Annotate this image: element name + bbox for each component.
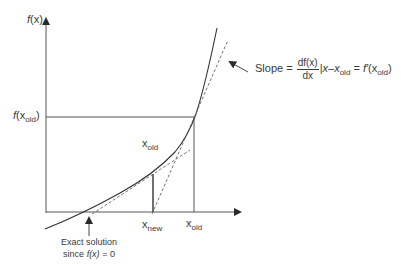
exact-solution-fn: f(x) bbox=[87, 249, 100, 259]
tangent-at-xnew bbox=[92, 150, 190, 214]
exact-solution-line1: Exact solution bbox=[58, 236, 120, 248]
xold-mid-base: x bbox=[142, 137, 148, 149]
exact-solution-caption: Exact solution since f(x) = 0 bbox=[58, 236, 120, 260]
eval-at: x–x bbox=[323, 62, 340, 74]
exact-solution-prefix: since bbox=[63, 249, 87, 259]
f-xold-sub: old bbox=[25, 115, 36, 124]
tangent-at-xold bbox=[152, 40, 228, 214]
y-axis-label: f(x) bbox=[27, 14, 43, 25]
y-axis-label-arg: (x) bbox=[30, 13, 43, 25]
derivative-denominator: dx bbox=[297, 70, 319, 81]
eval-sub: old bbox=[340, 68, 351, 77]
xold-axis-sub: old bbox=[192, 223, 203, 232]
result-sub: old bbox=[377, 68, 388, 77]
function-curve bbox=[45, 28, 217, 229]
xold-mid-sub: old bbox=[148, 143, 159, 152]
result-open: (x bbox=[368, 62, 377, 74]
slope-annotation: Slope = df(x) dx |x–xold = f′(xold) bbox=[255, 58, 392, 81]
exact-solution-suffix: = 0 bbox=[100, 249, 115, 259]
xnew-sub: new bbox=[148, 224, 163, 233]
xnew-label: xnew bbox=[142, 219, 162, 230]
slope-prefix: Slope = bbox=[255, 62, 293, 74]
xnew-base: x bbox=[142, 218, 148, 230]
slope-equals: = bbox=[353, 62, 359, 74]
newton-raphson-diagram: f(x) f(xold) xold xnew xold Slope = df(x… bbox=[0, 0, 401, 264]
derivative-fraction: df(x) dx bbox=[297, 58, 319, 81]
result-close: ) bbox=[388, 62, 392, 74]
f-xold-close: ) bbox=[36, 109, 40, 121]
derivative-numerator: df(x) bbox=[297, 58, 319, 70]
xold-axis-label: xold bbox=[186, 218, 202, 229]
xold-axis-base: x bbox=[186, 217, 192, 229]
xold-mid-label: xold bbox=[142, 138, 158, 149]
exact-solution-line2: since f(x) = 0 bbox=[58, 248, 120, 260]
f-xold-label: f(xold) bbox=[13, 110, 40, 121]
f-xold-open: (x bbox=[16, 109, 25, 121]
slope-pointer-arrow bbox=[230, 62, 248, 72]
